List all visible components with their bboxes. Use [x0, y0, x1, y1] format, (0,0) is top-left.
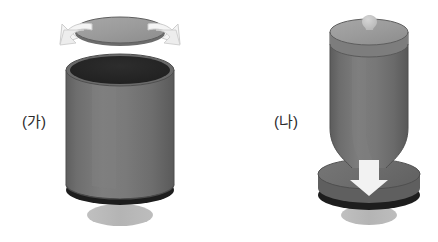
- diagram-canvas: (가) (나): [0, 0, 438, 242]
- panel-na: [318, 15, 420, 225]
- ga-ground-shadow: [87, 204, 153, 226]
- ga-body-highlight: [92, 70, 116, 189]
- figure-label-na: (나): [274, 110, 298, 131]
- diagram-svg: [0, 0, 438, 242]
- ga-detached-lid: [75, 17, 165, 43]
- figure-label-ga: (가): [22, 110, 46, 131]
- ga-open-mouth-interior: [70, 56, 170, 84]
- ga-cylinder-body: [66, 70, 174, 199]
- panel-ga: [60, 17, 180, 226]
